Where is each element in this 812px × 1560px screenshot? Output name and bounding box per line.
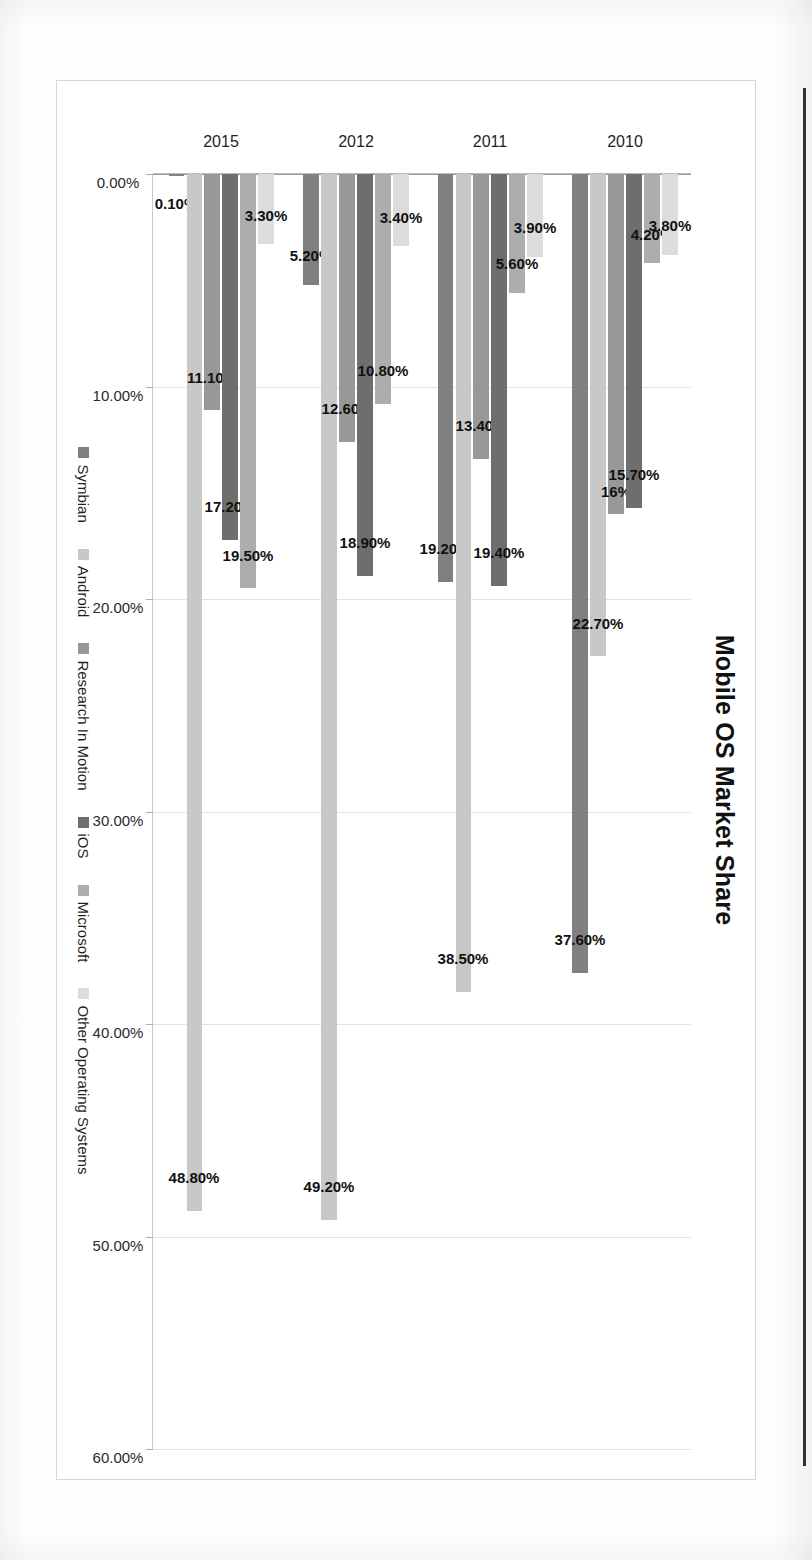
gridline xyxy=(153,1237,691,1238)
bar: 13.40% xyxy=(473,174,489,459)
gridline xyxy=(153,1449,691,1450)
bar: 16% xyxy=(608,174,624,514)
legend-label: Android xyxy=(75,566,92,618)
legend-item[interactable]: Other Operating Systems xyxy=(75,988,92,1174)
axis-tick-mark xyxy=(146,599,153,600)
bar: 48.80% xyxy=(187,174,203,1211)
legend-item[interactable]: Symbian xyxy=(75,447,92,522)
legend-swatch-icon xyxy=(78,988,89,999)
bar-value-label: 37.60% xyxy=(555,931,606,948)
axis-tick-label: 40.00% xyxy=(93,1024,144,1041)
bar: 19.50% xyxy=(240,174,256,588)
chart-title: Mobile OS Market Share xyxy=(710,81,739,1479)
bar: 3.80% xyxy=(662,174,678,255)
bar-value-label: 49.20% xyxy=(304,1178,355,1195)
bar: 3.40% xyxy=(393,174,409,246)
chart-legend: SymbianAndroidResearch In MotioniOSMicro… xyxy=(75,173,92,1449)
gridline xyxy=(153,599,691,600)
category-label: 2011 xyxy=(462,133,518,151)
legend-swatch-icon xyxy=(78,447,89,458)
scanned-page: Mobile OS Market Share 0.00%10.00%20.00%… xyxy=(0,0,812,1560)
gridline xyxy=(153,812,691,813)
plot-area: 0.00%10.00%20.00%30.00%40.00%50.00%60.00… xyxy=(153,173,691,1449)
bar-value-label: 48.80% xyxy=(169,1169,220,1186)
legend-swatch-icon xyxy=(78,885,89,896)
legend-label: iOS xyxy=(75,834,92,859)
bar: 12.60% xyxy=(339,174,355,442)
book-spine-edge xyxy=(803,88,806,1466)
bar-value-label: 22.70% xyxy=(573,614,624,631)
bar: 0.10% xyxy=(169,174,185,176)
category-label: 2010 xyxy=(597,133,653,151)
axis-tick-label: 60.00% xyxy=(93,1449,144,1466)
legend-label: Symbian xyxy=(75,464,92,522)
bar: 19.20% xyxy=(438,174,454,582)
axis-tick-mark xyxy=(146,1024,153,1025)
bar: 15.70% xyxy=(626,174,642,508)
axis-tick-label: 30.00% xyxy=(93,812,144,829)
bar-value-label: 19.50% xyxy=(223,546,274,563)
legend-label: Other Operating Systems xyxy=(75,1005,92,1174)
axis-tick-label: 20.00% xyxy=(93,599,144,616)
axis-tick-label: 10.00% xyxy=(93,387,144,404)
legend-item[interactable]: iOS xyxy=(75,817,92,859)
axis-tick-mark xyxy=(146,174,153,175)
category-label: 2015 xyxy=(193,133,249,151)
chart-rotated-canvas: Mobile OS Market Share 0.00%10.00%20.00%… xyxy=(56,80,756,1480)
bar: 5.20% xyxy=(303,174,319,285)
axis-tick-mark xyxy=(146,812,153,813)
category-label: 2012 xyxy=(328,133,384,151)
legend-swatch-icon xyxy=(78,643,89,654)
bar-value-label: 38.50% xyxy=(438,950,489,967)
axis-tick-label: 0.00% xyxy=(97,174,140,191)
legend-label: Research In Motion xyxy=(75,660,92,790)
bar-value-label: 5.60% xyxy=(496,255,539,272)
bar: 3.30% xyxy=(258,174,274,244)
legend-item[interactable]: Research In Motion xyxy=(75,643,92,790)
bar-value-label: 3.80% xyxy=(648,217,691,234)
bar: 3.90% xyxy=(527,174,543,257)
legend-label: Microsoft xyxy=(75,902,92,963)
bar: 38.50% xyxy=(456,174,472,992)
bar-value-label: 15.70% xyxy=(608,466,659,483)
bar: 17.20% xyxy=(222,174,238,540)
bar-value-label: 18.90% xyxy=(339,534,390,551)
chart-frame: Mobile OS Market Share 0.00%10.00%20.00%… xyxy=(56,80,756,1480)
bar-value-label: 10.80% xyxy=(357,362,408,379)
gridline xyxy=(153,1024,691,1025)
axis-tick-mark xyxy=(146,1237,153,1238)
bar-value-label: 3.40% xyxy=(379,208,422,225)
plot-inner: 0.00%10.00%20.00%30.00%40.00%50.00%60.00… xyxy=(153,173,691,1449)
bar: 49.20% xyxy=(321,174,337,1220)
axis-tick-mark xyxy=(146,1449,153,1450)
legend-item[interactable]: Android xyxy=(75,549,92,618)
bar-value-label: 3.90% xyxy=(514,219,557,236)
bar-value-label: 19.40% xyxy=(474,544,525,561)
bar: 19.40% xyxy=(491,174,507,586)
axis-tick-label: 50.00% xyxy=(93,1237,144,1254)
legend-item[interactable]: Microsoft xyxy=(75,885,92,963)
bar-value-label: 3.30% xyxy=(245,206,288,223)
axis-tick-mark xyxy=(146,387,153,388)
bar: 11.10% xyxy=(204,174,220,410)
bar: 37.60% xyxy=(572,174,588,973)
legend-swatch-icon xyxy=(78,817,89,828)
bar: 22.70% xyxy=(590,174,606,656)
chart-rotation-slot: Mobile OS Market Share 0.00%10.00%20.00%… xyxy=(56,80,756,1480)
legend-swatch-icon xyxy=(78,549,89,560)
